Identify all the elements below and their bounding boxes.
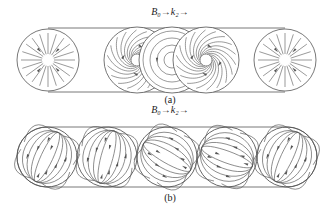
panel-b-caption: (b)	[155, 192, 185, 203]
panel-b-circle-4	[189, 119, 266, 196]
panel-b-circle-2	[70, 120, 143, 193]
panel-a-circle-1	[17, 29, 79, 91]
panel-b-circle-5	[247, 117, 327, 197]
panel-a-circle-5	[254, 29, 316, 91]
panel-b-header: B₀→k₂→	[145, 104, 195, 115]
panel-a-circle-4	[173, 27, 239, 93]
panel-b-circle-3	[126, 116, 208, 198]
panel-b-circle-1	[7, 117, 87, 197]
panel-b	[7, 116, 327, 198]
panel-a	[17, 27, 316, 93]
panel-a-header: B₀→k₂→	[145, 6, 195, 17]
